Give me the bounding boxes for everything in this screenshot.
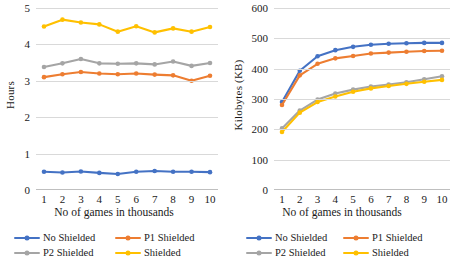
x-axis-ticks-left: 12345678910 xyxy=(36,192,218,206)
data-point xyxy=(79,169,84,174)
data-point xyxy=(97,71,102,76)
x-axis-tick-label: 5 xyxy=(108,192,128,206)
data-point xyxy=(440,48,445,53)
y-axis-tick-label: 600 xyxy=(232,3,268,14)
gridline xyxy=(36,81,218,82)
data-point xyxy=(315,100,320,105)
series-line xyxy=(44,20,210,33)
legend-item-shielded[interactable]: Shielded xyxy=(343,247,438,258)
legend-label-p1-shielded: P1 Shielded xyxy=(144,232,194,243)
data-point xyxy=(115,72,120,77)
y-axis-tick-label: 400 xyxy=(232,63,268,74)
data-point xyxy=(315,54,320,59)
data-point xyxy=(280,130,285,135)
legend-item-no-shielded[interactable]: No Shielded xyxy=(14,232,113,243)
y-axis-tick-label: 5 xyxy=(4,3,30,14)
x-axis-tick-label: 9 xyxy=(182,192,202,206)
data-point xyxy=(42,65,47,70)
data-point xyxy=(152,72,157,77)
data-point xyxy=(79,57,84,62)
data-point xyxy=(115,172,120,177)
data-point xyxy=(134,71,139,76)
legend-label-shielded: Shielded xyxy=(144,247,181,258)
data-point xyxy=(115,61,120,66)
x-axis-tick-label: 4 xyxy=(89,192,109,206)
chart-panel-kilobytes: Kilobytes (KB) 0100200300400500600 12345… xyxy=(228,0,456,276)
series-shielded xyxy=(42,17,213,34)
data-point xyxy=(152,169,157,174)
data-point xyxy=(404,41,409,46)
legend-marker-shielded-icon xyxy=(115,249,141,257)
y-axis-tick-label: 500 xyxy=(232,33,268,44)
legend-label-shielded: Shielded xyxy=(372,247,409,258)
data-point xyxy=(297,73,302,78)
gridline xyxy=(274,160,450,161)
plot-area-right: 0100200300400500600 xyxy=(274,8,450,190)
gridline xyxy=(274,38,450,39)
x-axis-ticks-right: 12345678910 xyxy=(274,192,450,206)
legend-marker-p1-shielded-icon xyxy=(343,234,369,242)
legend-label-p2-shielded: P2 Shielded xyxy=(43,247,93,258)
data-point xyxy=(152,62,157,67)
gridline xyxy=(274,8,450,9)
data-point xyxy=(152,30,157,35)
data-point xyxy=(280,103,285,108)
data-point xyxy=(208,25,213,30)
gridline xyxy=(274,99,450,100)
x-axis-tick-label: 8 xyxy=(163,192,183,206)
legend-item-no-shielded[interactable]: No Shielded xyxy=(246,232,341,243)
series-p2-shielded xyxy=(42,57,213,70)
figure-two-line-charts: Hours 012345 12345678910 No of games in … xyxy=(0,0,456,276)
data-point xyxy=(440,78,445,83)
data-point xyxy=(134,24,139,29)
legend-label-p1-shielded: P1 Shielded xyxy=(372,232,422,243)
data-point xyxy=(189,170,194,175)
legend-item-p1-shielded[interactable]: P1 Shielded xyxy=(343,232,438,243)
data-point xyxy=(42,75,47,80)
x-axis-label-right: No of games in thousands xyxy=(228,206,456,218)
data-point xyxy=(422,41,427,46)
data-point xyxy=(79,20,84,25)
series-line xyxy=(282,76,442,128)
y-axis-tick-label: 4 xyxy=(4,39,30,50)
legend-marker-no-shielded-icon xyxy=(14,234,40,242)
data-point xyxy=(440,41,445,46)
y-axis-tick-label: 1 xyxy=(4,148,30,159)
legend-item-p2-shielded[interactable]: P2 Shielded xyxy=(246,247,341,258)
legend-item-shielded[interactable]: Shielded xyxy=(115,247,214,258)
series-line xyxy=(44,72,210,81)
legend-marker-p2-shielded-icon xyxy=(246,249,272,257)
x-axis-tick-label: 1 xyxy=(34,192,54,206)
data-point xyxy=(422,49,427,54)
y-axis-tick-label: 2 xyxy=(4,112,30,123)
data-point xyxy=(42,24,47,29)
x-axis-line-right xyxy=(274,189,450,190)
legend-item-p1-shielded[interactable]: P1 Shielded xyxy=(115,232,214,243)
data-point xyxy=(171,170,176,175)
gridline xyxy=(274,69,450,70)
legend-item-p2-shielded[interactable]: P2 Shielded xyxy=(14,247,113,258)
data-point xyxy=(369,86,374,91)
plot-area-left: 012345 xyxy=(36,8,218,190)
x-axis-tick-label: 10 xyxy=(200,192,220,206)
data-point xyxy=(97,22,102,27)
gridline xyxy=(36,117,218,118)
data-point xyxy=(97,171,102,176)
x-axis-tick-label: 7 xyxy=(145,192,165,206)
series-line xyxy=(44,171,210,174)
data-point xyxy=(208,73,213,78)
data-point xyxy=(333,48,338,53)
data-point xyxy=(369,51,374,56)
y-axis-tick-label: 300 xyxy=(232,94,268,105)
data-point xyxy=(115,29,120,34)
data-point xyxy=(60,72,65,77)
y-axis-label-left: Hours xyxy=(2,0,18,190)
legend-marker-no-shielded-icon xyxy=(246,234,272,242)
data-point xyxy=(333,56,338,61)
data-point xyxy=(79,70,84,75)
x-axis-tick-label: 6 xyxy=(126,192,146,206)
y-axis-tick-label: 100 xyxy=(232,154,268,165)
y-axis-tick-label: 200 xyxy=(232,124,268,135)
x-axis-label-left: No of games in thousands xyxy=(0,206,228,218)
gridline xyxy=(36,154,218,155)
